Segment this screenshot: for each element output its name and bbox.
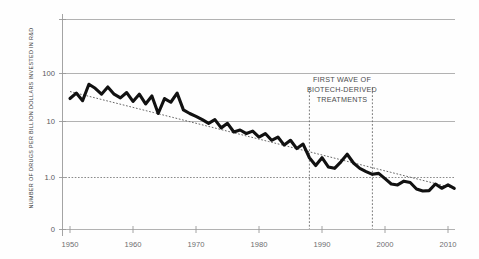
chart-plot-area: 100 10 1.0 0 1950 1960 1970 1980 1990 20… <box>0 0 479 259</box>
x-tick-label-2000: 2000 <box>377 240 394 249</box>
x-tick-label-1980: 1980 <box>251 240 268 249</box>
drug-discovery-eroom-law-chart: 100 10 1.0 0 1950 1960 1970 1980 1990 20… <box>0 0 479 259</box>
x-tick-label-1950: 1950 <box>62 240 79 249</box>
y-tick-label-1: 1.0 <box>44 173 55 182</box>
x-tick-label-1960: 1960 <box>125 240 142 249</box>
annotation-first-wave-biotech: FIRST WAVE OF BIOTECH-DERIVED TREATMENTS <box>307 75 377 104</box>
y-tick-label-0: 0 <box>51 225 55 234</box>
x-tick-label-1970: 1970 <box>188 240 205 249</box>
drugs-per-billion-line <box>70 84 454 191</box>
annotation-line-3: TREATMENTS <box>317 95 368 104</box>
gridlines-horizontal <box>62 20 455 230</box>
y-tick-label-100: 100 <box>42 69 55 78</box>
chart-screenshot: 100 10 1.0 0 1950 1960 1970 1980 1990 20… <box>0 0 479 259</box>
x-tick-label-1990: 1990 <box>314 240 331 249</box>
annotation-line-2: BIOTECH-DERIVED <box>307 85 377 94</box>
y-tick-label-10: 10 <box>47 117 55 126</box>
exponential-trend-line <box>70 92 454 189</box>
annotation-line-1: FIRST WAVE OF <box>313 75 372 84</box>
x-tick-label-2010: 2010 <box>440 240 457 249</box>
